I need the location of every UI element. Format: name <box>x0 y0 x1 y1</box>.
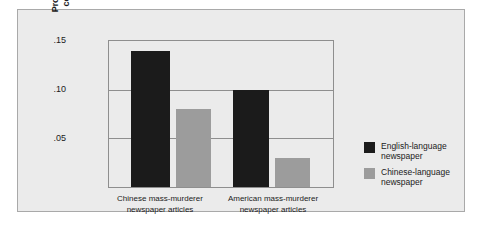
legend-label-english-language-line-2: newspaper <box>381 151 447 161</box>
figure: Proportion of attributions coded as disp… <box>0 0 485 231</box>
legend-label-chinese-language: Chinese-language newspaper <box>381 167 450 187</box>
plot-area <box>108 40 334 188</box>
legend-label-english-language: English-language newspaper <box>381 141 447 161</box>
legend-label-chinese-language-line-2: newspaper <box>381 177 450 187</box>
bar-english-chinese-articles <box>131 51 170 187</box>
y-axis-title-line-1: Proportion of attributions <box>50 0 61 36</box>
x-category-label-2: American mass-murderer newspaper article… <box>203 193 343 215</box>
bar-english-american-articles <box>233 90 269 187</box>
x-category-label-2-line-2: newspaper articles <box>203 204 343 215</box>
bar-chinese-english-articles <box>176 109 211 187</box>
legend-item-english-language: English-language newspaper <box>364 141 450 161</box>
x-category-label-2-line-1: American mass-murderer <box>203 193 343 204</box>
legend-label-english-language-line-1: English-language <box>381 141 447 151</box>
legend: English-language newspaper Chinese-langu… <box>364 141 450 193</box>
legend-label-chinese-language-line-1: Chinese-language <box>381 167 450 177</box>
y-tick-label-010: .10 <box>36 84 66 94</box>
legend-swatch-icon-chinese-language <box>364 168 375 179</box>
y-axis-title: Proportion of attributions coded as disp… <box>50 0 80 36</box>
chart-panel: Proportion of attributions coded as disp… <box>17 9 465 212</box>
y-tick-label-015: .15 <box>36 35 66 45</box>
legend-swatch-icon-english-language <box>364 142 375 153</box>
y-tick-label-005: .05 <box>36 133 66 143</box>
legend-item-chinese-language: Chinese-language newspaper <box>364 167 450 187</box>
y-axis-title-line-2: coded as dispositional <box>61 0 72 36</box>
bar-chinese-american-articles <box>275 158 310 187</box>
